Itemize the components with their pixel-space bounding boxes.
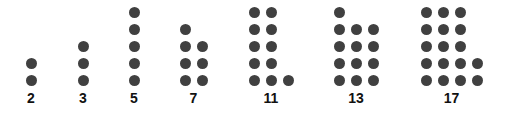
dot [351,58,362,69]
number-label: 3 [63,90,103,106]
dot [249,24,260,35]
dot [421,7,432,18]
number-label: 13 [336,90,376,106]
dot [78,41,89,52]
dot [455,75,466,86]
dot [78,75,89,86]
dot [455,41,466,52]
dot [334,7,345,18]
dot [129,7,140,18]
dot [421,75,432,86]
dot [180,75,191,86]
dot [197,58,208,69]
dot [351,24,362,35]
dot [455,24,466,35]
dot [26,58,37,69]
dot [197,75,208,86]
dot [438,58,449,69]
dot [421,24,432,35]
dot [249,7,260,18]
dot [26,75,37,86]
dot [438,24,449,35]
dot [129,24,140,35]
number-label: 7 [174,90,214,106]
dot [266,41,277,52]
dot [197,41,208,52]
dot [455,58,466,69]
dot [421,58,432,69]
dot [266,24,277,35]
dot [129,58,140,69]
dot [421,41,432,52]
dot [368,58,379,69]
dot [368,24,379,35]
dot [351,41,362,52]
dot [180,41,191,52]
dot [472,58,483,69]
dot [249,41,260,52]
dot [368,75,379,86]
dot [438,7,449,18]
dot [334,58,345,69]
number-label: 17 [432,90,472,106]
dot [455,7,466,18]
number-label: 5 [114,90,154,106]
prime-dot-diagram: 2357111317 [0,0,511,115]
number-label: 2 [11,90,51,106]
dot [283,75,294,86]
dot [351,75,362,86]
dot [438,41,449,52]
dot [266,75,277,86]
dot [334,41,345,52]
dot [249,58,260,69]
dot [249,75,260,86]
number-label: 11 [251,90,291,106]
dot [180,24,191,35]
dot [368,41,379,52]
dot [472,75,483,86]
dot [78,58,89,69]
dot [129,75,140,86]
dot [334,75,345,86]
dot [129,41,140,52]
dot [266,7,277,18]
dot [180,58,191,69]
dot [266,58,277,69]
dot [334,24,345,35]
dot [438,75,449,86]
